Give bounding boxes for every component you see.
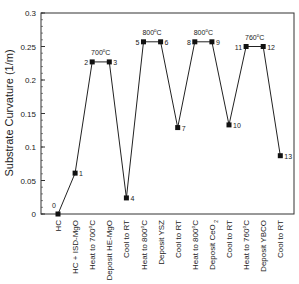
point-label: 12 <box>267 44 275 51</box>
x-tick-label: Deposit CeO 2 <box>208 220 219 270</box>
point-label: 7 <box>182 125 186 132</box>
point-label: 9 <box>216 39 220 46</box>
data-point <box>107 59 112 64</box>
data-point <box>278 153 283 158</box>
x-tick-label: Deposit YBCO <box>259 220 268 272</box>
data-point <box>209 39 214 44</box>
data-point <box>141 39 146 44</box>
point-label: 6 <box>165 39 169 46</box>
x-tick-label: Cool to RT <box>174 220 183 258</box>
data-point <box>192 39 197 44</box>
x-tick-label: Heat to 700oC <box>87 220 97 270</box>
data-point <box>227 122 232 127</box>
point-label: 2 <box>84 59 88 66</box>
data-point <box>175 125 180 130</box>
point-label: 5 <box>136 39 140 46</box>
data-point <box>56 212 61 217</box>
y-tick-label: 0 <box>32 210 37 219</box>
x-tick-label: Heat to 800oC <box>139 220 149 270</box>
point-label: 11 <box>235 44 242 51</box>
x-tick-label: HC <box>54 220 63 232</box>
point-label: 4 <box>130 195 134 202</box>
point-label: 1 <box>79 170 83 177</box>
data-point <box>244 44 249 49</box>
curvature-chart: 00.050.10.150.20.250.3 Substrate Curvatu… <box>0 0 299 284</box>
temperature-annotation: 800oC <box>194 28 213 36</box>
x-tick-label: Deposit HE-MgO <box>105 220 114 280</box>
point-label: 3 <box>113 59 117 66</box>
y-tick-label: 0.1 <box>25 143 37 152</box>
temperature-annotation: 760oC <box>245 33 264 41</box>
x-tick-label: Deposit YSZ <box>157 220 166 265</box>
point-label: 13 <box>284 153 292 160</box>
data-series: 012345678910111213 <box>52 39 292 217</box>
data-point <box>158 39 163 44</box>
x-axis: HCHC + ISD-MgOHeat to 700oCDeposit HE-Mg… <box>54 220 285 281</box>
temperature-annotation: 800oC <box>142 28 161 36</box>
y-tick-label: 0.15 <box>20 110 36 119</box>
x-tick-label: Heat to 760oC <box>241 220 251 270</box>
y-tick-label: 0.3 <box>25 9 37 18</box>
data-point <box>261 44 266 49</box>
data-point <box>73 171 78 176</box>
y-tick-label: 0.2 <box>25 76 37 85</box>
temperature-annotation: 700oC <box>91 48 110 56</box>
x-tick-label: Heat to 800oC <box>190 220 200 270</box>
y-axis-label: Substrate Curvature (1/m) <box>3 49 15 176</box>
x-tick-label: Cool to RT <box>225 220 234 258</box>
point-label: 0 <box>52 202 56 209</box>
data-point <box>124 195 129 200</box>
data-point <box>90 59 95 64</box>
x-tick-label: Cool to RT <box>276 220 285 258</box>
y-tick-label: 0.25 <box>20 43 36 52</box>
x-tick-label: Cool to RT <box>122 220 131 258</box>
x-tick-label: HC + ISD-MgO <box>71 220 80 274</box>
y-tick-label: 0.05 <box>20 177 36 186</box>
point-label: 10 <box>233 122 241 129</box>
point-label: 8 <box>187 39 191 46</box>
temperature-annotations: 700oC800oC800oC760oC <box>91 28 264 56</box>
